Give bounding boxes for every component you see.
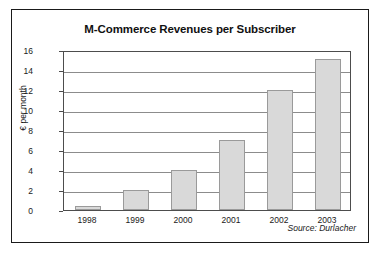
y-tick-mark (59, 51, 63, 52)
bar-slot (208, 52, 256, 210)
y-tick-mark (59, 111, 63, 112)
x-tick-label: 2002 (270, 215, 289, 225)
bar-2001 (219, 140, 245, 210)
y-tick-label: 10 (3, 106, 33, 116)
chart-title: M-Commerce Revenues per Subscriber (12, 23, 368, 35)
y-tick-mark (59, 191, 63, 192)
plot-area (63, 51, 351, 211)
source-note: Source: Durlacher (287, 223, 356, 233)
bar-slot (304, 52, 352, 210)
y-tick-mark (59, 171, 63, 172)
y-tick-mark (59, 131, 63, 132)
bar-2003 (315, 59, 341, 210)
x-tick-label: 2001 (222, 215, 241, 225)
y-tick-mark (59, 211, 63, 212)
y-tick-label: 16 (3, 46, 33, 56)
bar-slot (64, 52, 112, 210)
y-tick-label: 6 (3, 146, 33, 156)
y-tick-label: 12 (3, 86, 33, 96)
bar-1998 (75, 206, 101, 210)
chart-figure: M-Commerce Revenues per Subscriber € per… (11, 9, 369, 243)
y-tick-mark (59, 91, 63, 92)
bar-slot (256, 52, 304, 210)
y-tick-label: 8 (3, 126, 33, 136)
bar-slot (160, 52, 208, 210)
x-tick-label: 2000 (174, 215, 193, 225)
bar-2002 (267, 90, 293, 210)
bar-slot (112, 52, 160, 210)
y-tick-mark (59, 71, 63, 72)
y-tick-label: 2 (3, 186, 33, 196)
y-tick-label: 4 (3, 166, 33, 176)
bar-1999 (123, 190, 149, 210)
bar-2000 (171, 170, 197, 210)
y-tick-label: 0 (3, 206, 33, 216)
x-tick-label: 1998 (78, 215, 97, 225)
y-tick-mark (59, 151, 63, 152)
x-tick-label: 1999 (126, 215, 145, 225)
y-tick-label: 14 (3, 66, 33, 76)
